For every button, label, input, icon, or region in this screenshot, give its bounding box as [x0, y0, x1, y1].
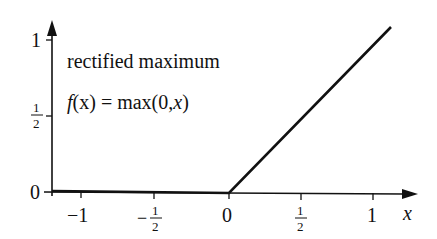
y-label-half-den: 2 [33, 116, 40, 131]
relu-chart: 1 1 2 0 −1 − 1 2 0 1 2 1 x rectified max… [0, 0, 437, 239]
formula-x: x [172, 91, 182, 113]
y-label-half-num: 1 [33, 100, 40, 115]
x-label-half-den: 2 [297, 219, 304, 234]
formula-close: ) [182, 91, 189, 114]
x-label-mhalf-num: 1 [152, 203, 159, 218]
x-label-m1: −1 [67, 204, 88, 226]
y-axis-arrow-icon [47, 20, 57, 36]
annotation-text: rectified maximum [67, 50, 220, 72]
formula-rest: (x) = max(0, [73, 91, 174, 114]
x-axis-arrow-icon [402, 189, 418, 199]
x-axis-label: x [402, 202, 412, 224]
x-label-0: 0 [222, 204, 232, 226]
formula-text: f(x) = max(0,x) [67, 91, 189, 114]
x-label-mhalf-den: 2 [152, 219, 159, 234]
y-label-1: 1 [31, 29, 41, 51]
y-label-0: 0 [30, 181, 40, 203]
x-label-mhalf-minus: − [137, 208, 147, 228]
x-label-1: 1 [367, 204, 377, 226]
x-label-half-num: 1 [297, 203, 304, 218]
